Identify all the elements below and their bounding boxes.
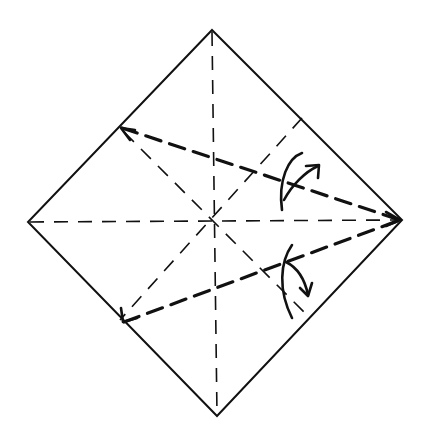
lower-fold-arrow-icon: [286, 262, 308, 295]
upper-fold-tip-icon: [121, 128, 135, 140]
lower-fold-tip-icon: [121, 308, 137, 322]
lower-fold-curve-icon: [282, 245, 292, 318]
upper-valley-fold: [122, 128, 400, 220]
origami-diagram: Square paper in diamond orientation with…: [0, 0, 424, 429]
diagram-canvas: [0, 0, 424, 429]
